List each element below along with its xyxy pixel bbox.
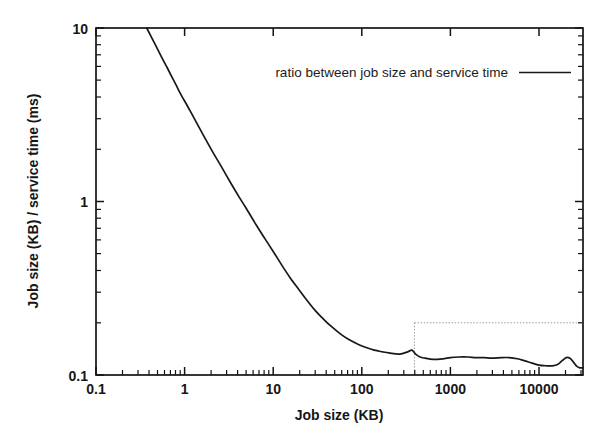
legend: ratio between job size and service time <box>275 65 571 80</box>
y-tick-label-10: 10 <box>72 21 88 37</box>
chart-figure: 0.1 1 10 100 1000 10000 10 1 0.1 Job siz… <box>0 0 615 438</box>
x-tick-label-4: 1000 <box>435 381 466 397</box>
x-tick-label-3: 100 <box>350 381 374 397</box>
x-tick-label-0: 0.1 <box>86 381 106 397</box>
x-tick-label-2: 10 <box>265 381 281 397</box>
legend-entry-label: ratio between job size and service time <box>275 65 508 80</box>
x-axis-title: Job size (KB) <box>295 407 384 423</box>
y-axis-title: Job size (KB) / service time (ms) <box>25 94 41 309</box>
x-tick-labels: 0.1 1 10 100 1000 10000 <box>86 381 558 397</box>
y-axis-ticks <box>96 28 583 375</box>
y-tick-labels: 10 1 0.1 <box>69 21 89 384</box>
y-tick-label-0-1: 0.1 <box>69 368 89 384</box>
chart-canvas: 0.1 1 10 100 1000 10000 10 1 0.1 Job siz… <box>0 0 615 438</box>
inset-region-marker <box>414 323 583 375</box>
plot-frame <box>96 28 583 375</box>
y-tick-label-1: 1 <box>80 194 88 210</box>
x-tick-label-1: 1 <box>181 381 189 397</box>
x-tick-label-5: 10000 <box>520 381 559 397</box>
